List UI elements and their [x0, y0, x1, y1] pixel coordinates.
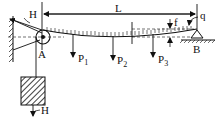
load-p3: P3: [153, 34, 168, 68]
label-f: f: [174, 16, 178, 28]
tension-arrow-top: H: [10, 8, 42, 30]
label-l: L: [115, 2, 122, 14]
label-q: q: [200, 9, 206, 21]
label-b: B: [193, 43, 200, 55]
left-wall: [9, 16, 13, 62]
span-dimension: L: [44, 2, 195, 14]
svg-text:P3: P3: [158, 53, 168, 68]
svg-text:P1: P1: [78, 52, 88, 67]
svg-text:P2: P2: [117, 54, 127, 69]
support-b: B: [180, 30, 215, 55]
cable-diagram: H A H L: [0, 0, 218, 122]
load-p2: P2: [113, 36, 127, 69]
label-h-top: H: [29, 8, 37, 20]
distributed-load-label: q: [189, 9, 206, 25]
weight-block: H: [21, 77, 49, 116]
pulley-bracket: [13, 20, 42, 50]
load-p1: P1: [73, 34, 88, 67]
pulley-a: A: [36, 30, 50, 60]
label-h-weight: H: [41, 104, 49, 116]
